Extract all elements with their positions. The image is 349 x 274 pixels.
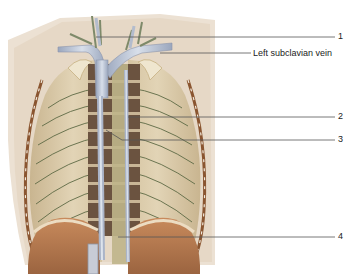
anatomy-figure: 1 Left subclavian vein 2 3 4 — [0, 0, 349, 274]
label-4: 4 — [338, 231, 343, 241]
superior-vena-cava — [96, 60, 108, 98]
thorax-illustration — [0, 0, 349, 274]
label-3: 3 — [338, 134, 343, 144]
label-2: 2 — [338, 111, 343, 121]
label-1: 1 — [338, 31, 343, 41]
label-left-subclavian-vein: Left subclavian vein — [253, 48, 332, 58]
